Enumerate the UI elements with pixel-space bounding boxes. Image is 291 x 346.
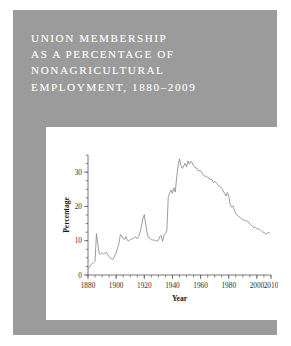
y-axis-title: Percentage xyxy=(62,197,71,233)
x-axis-tick-label: 1980 xyxy=(221,281,236,290)
page-title: UNION MEMBERSHIP AS A PERCENTAGE OF NONA… xyxy=(31,30,275,95)
x-axis-tick-label: 2000 xyxy=(250,281,265,290)
data-series-line xyxy=(88,159,270,269)
figure-gray-panel: UNION MEMBERSHIP AS A PERCENTAGE OF NONA… xyxy=(13,10,277,335)
x-axis-title: Year xyxy=(172,294,188,303)
x-axis-tick-label: 1960 xyxy=(193,281,208,290)
x-axis-tick-label: 1880 xyxy=(81,281,96,290)
chart-panel: 188019001920194019601980200020100102030Y… xyxy=(46,127,278,320)
line-chart: 188019001920194019601980200020100102030Y… xyxy=(46,127,278,320)
x-axis-tick-label: 1920 xyxy=(137,281,152,290)
y-axis-tick-label: 30 xyxy=(75,168,83,177)
y-axis-tick-label: 20 xyxy=(75,202,83,211)
x-axis-tick-label: 1940 xyxy=(165,281,180,290)
x-axis-tick-label: 2010 xyxy=(264,281,278,290)
y-axis-tick-label: 0 xyxy=(78,271,82,280)
y-axis-tick-label: 10 xyxy=(75,236,83,245)
figure-page: UNION MEMBERSHIP AS A PERCENTAGE OF NONA… xyxy=(0,0,291,346)
x-axis-tick-label: 1900 xyxy=(109,281,124,290)
